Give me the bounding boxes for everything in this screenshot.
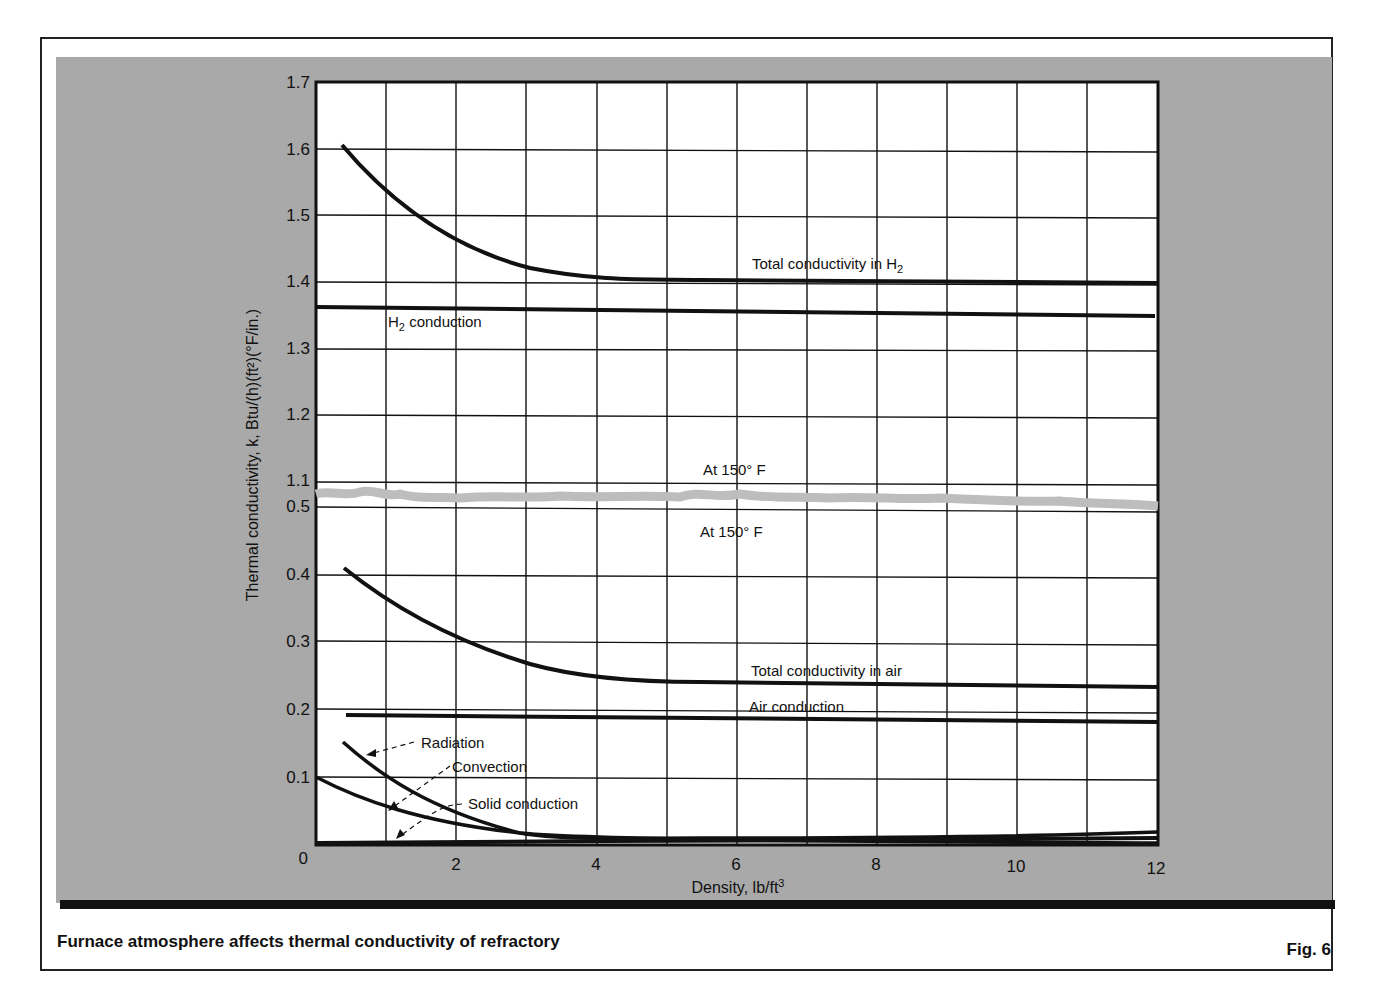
svg-text:6: 6 bbox=[731, 855, 740, 874]
svg-text:1.1: 1.1 bbox=[286, 471, 310, 490]
label-convection: Convection bbox=[452, 758, 527, 775]
y-axis-title: Thermal conductivity, k, Btu/(h)(ft²)(°F… bbox=[244, 309, 261, 601]
y-ticks-lower: 0.5 0.4 0.3 0.2 0.1 0 bbox=[286, 497, 310, 868]
figure-number: Fig. 6 bbox=[1287, 940, 1331, 960]
svg-text:1.5: 1.5 bbox=[286, 206, 310, 225]
svg-text:0.2: 0.2 bbox=[286, 700, 310, 719]
svg-text:0.3: 0.3 bbox=[286, 632, 310, 651]
svg-text:2: 2 bbox=[451, 855, 460, 874]
label-at-150f-lower: At 150° F bbox=[700, 523, 763, 540]
svg-text:0.4: 0.4 bbox=[286, 565, 310, 584]
svg-text:12: 12 bbox=[1147, 859, 1166, 878]
svg-text:1.2: 1.2 bbox=[286, 405, 310, 424]
label-total-air: Total conductivity in air bbox=[751, 662, 902, 679]
svg-text:0.5: 0.5 bbox=[286, 497, 310, 516]
svg-text:1.3: 1.3 bbox=[286, 339, 310, 358]
svg-text:1.6: 1.6 bbox=[286, 140, 310, 159]
svg-text:0.1: 0.1 bbox=[286, 768, 310, 787]
y-ticks-upper: 1.7 1.6 1.5 1.4 1.3 1.2 1.1 bbox=[286, 73, 310, 490]
caption-rule bbox=[60, 900, 1335, 909]
x-axis-title: Density, lb/ft3 bbox=[692, 877, 785, 896]
figure-caption: Furnace atmosphere affects thermal condu… bbox=[57, 932, 560, 952]
svg-text:4: 4 bbox=[591, 855, 600, 874]
svg-text:8: 8 bbox=[871, 855, 880, 874]
label-radiation: Radiation bbox=[421, 734, 484, 751]
svg-text:10: 10 bbox=[1007, 857, 1026, 876]
svg-text:1.7: 1.7 bbox=[286, 73, 310, 92]
svg-text:1.4: 1.4 bbox=[286, 272, 310, 291]
chart: Total conductivity in H2 H2 conduction A… bbox=[0, 0, 1393, 1003]
x-ticks: 2 4 6 8 10 12 bbox=[451, 855, 1165, 878]
label-air-conduction: Air conduction bbox=[749, 698, 844, 715]
svg-text:0: 0 bbox=[299, 849, 308, 868]
label-at-150f-upper: At 150° F bbox=[703, 461, 766, 478]
label-solid-conduction: Solid conduction bbox=[468, 795, 578, 812]
